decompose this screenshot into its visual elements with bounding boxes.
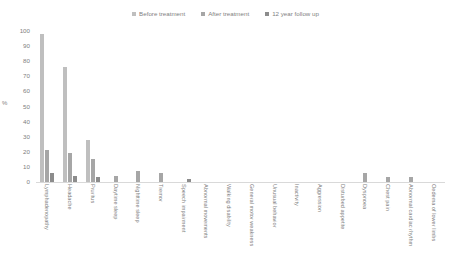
x-axis-label-cell: Headache — [59, 184, 82, 274]
bar-group — [377, 31, 400, 182]
x-axis-label-cell: Unusual behavior — [263, 184, 286, 274]
x-axis-label-cell: Chest pain — [377, 184, 400, 274]
bar-groups — [36, 31, 445, 182]
bar-group — [195, 31, 218, 182]
x-axis-label-cell: General motor weakness — [240, 184, 263, 274]
x-axis-label: Unusual behavior — [272, 184, 278, 228]
x-axis-label-cell: Abnormal cardiac rhythm — [400, 184, 423, 274]
chart-legend: Before treatmentAfter treatment12 year f… — [0, 10, 451, 17]
x-axis-label: Pruritus — [90, 184, 96, 203]
x-axis-label: Oedema of lower limbs — [431, 184, 437, 241]
bar[interactable] — [91, 159, 95, 182]
bar[interactable] — [363, 173, 367, 182]
bar-group — [59, 31, 82, 182]
x-axis-label-cell: Walking disability — [218, 184, 241, 274]
x-axis-label: General motor weakness — [249, 184, 255, 246]
legend-swatch-icon — [265, 12, 269, 16]
x-axis-label-cell: Disturbed appetite — [331, 184, 354, 274]
x-axis-label: Headache — [67, 184, 73, 210]
y-axis-tick-label: 30 — [23, 134, 30, 140]
x-axis-label-cell: Dyspnoea — [354, 184, 377, 274]
bar[interactable] — [86, 140, 90, 182]
x-axis-label-cell: Nighttime sleep — [127, 184, 150, 274]
bar-group — [218, 31, 241, 182]
bar-chart: Before treatmentAfter treatment12 year f… — [0, 0, 451, 275]
bar[interactable] — [159, 173, 163, 182]
x-axis-label: Speech impairment — [181, 184, 187, 232]
bar-group — [309, 31, 332, 182]
y-axis-tick-label: 100 — [20, 28, 30, 34]
y-axis-tick-label: 40 — [23, 119, 30, 125]
y-axis-tick-label: 20 — [23, 149, 30, 155]
x-axis-label-cell: Speech impairment — [172, 184, 195, 274]
x-axis-label: Abnormal movements — [203, 184, 209, 238]
x-axis-label: Abnormal cardiac rhythm — [408, 184, 414, 246]
legend-label: 12 year follow up — [272, 10, 319, 17]
bar-group — [240, 31, 263, 182]
bar[interactable] — [40, 34, 44, 182]
bar-group — [400, 31, 423, 182]
x-axis-labels: LymphadenopathyHeadachePruritusDaytime s… — [36, 184, 445, 274]
bar-group — [36, 31, 59, 182]
bar-group — [81, 31, 104, 182]
y-axis-tick-label: 10 — [23, 164, 30, 170]
x-axis-label-cell: Daytime sleep — [104, 184, 127, 274]
legend-item[interactable]: Before treatment — [132, 10, 185, 17]
legend-item[interactable]: 12 year follow up — [265, 10, 319, 17]
bar-group — [354, 31, 377, 182]
legend-label: After treatment — [208, 10, 249, 17]
bar[interactable] — [45, 150, 49, 182]
legend-swatch-icon — [201, 12, 205, 16]
x-axis-label: Tremor — [158, 184, 164, 202]
x-axis-label: Walking disability — [226, 184, 232, 227]
x-axis-label: Inactivity — [294, 184, 300, 206]
x-axis-label: Daytime sleep — [113, 184, 119, 219]
bar-group — [150, 31, 173, 182]
x-axis-label-cell: Aggression — [309, 184, 332, 274]
legend-item[interactable]: After treatment — [201, 10, 249, 17]
legend-label: Before treatment — [139, 10, 185, 17]
x-axis-label-cell: Lymphadenopathy — [36, 184, 59, 274]
legend-swatch-icon — [132, 12, 136, 16]
bar-group — [263, 31, 286, 182]
bar-group — [127, 31, 150, 182]
x-axis-label: Nighttime sleep — [135, 184, 141, 223]
bar-group — [331, 31, 354, 182]
y-axis-tick-label: 50 — [23, 104, 30, 110]
bar-group — [172, 31, 195, 182]
bar-group — [286, 31, 309, 182]
x-axis-line — [36, 182, 445, 183]
x-axis-label: Chest pain — [385, 184, 391, 211]
x-axis-label-cell: Abnormal movements — [195, 184, 218, 274]
y-axis-tick-label: 70 — [23, 73, 30, 79]
bar[interactable] — [50, 173, 54, 182]
bar[interactable] — [68, 153, 72, 182]
x-axis-label: Dyspnoea — [362, 184, 368, 209]
y-axis-tick-label: 0 — [27, 179, 30, 185]
bar-group — [422, 31, 445, 182]
x-axis-label-cell: Pruritus — [81, 184, 104, 274]
y-axis-ticks: 1009080706050403020100 — [0, 31, 34, 182]
y-axis-tick-label: 80 — [23, 58, 30, 64]
x-axis-label-cell: Inactivity — [286, 184, 309, 274]
bar[interactable] — [63, 67, 67, 182]
x-axis-label-cell: Tremor — [150, 184, 173, 274]
y-axis-tick-label: 90 — [23, 43, 30, 49]
x-axis-label-cell: Oedema of lower limbs — [422, 184, 445, 274]
x-axis-label: Disturbed appetite — [340, 184, 346, 229]
x-axis-label: Lymphadenopathy — [44, 184, 50, 230]
bar[interactable] — [136, 171, 140, 182]
y-axis-tick-label: 60 — [23, 88, 30, 94]
x-axis-label: Aggression — [317, 184, 323, 212]
bar-group — [104, 31, 127, 182]
